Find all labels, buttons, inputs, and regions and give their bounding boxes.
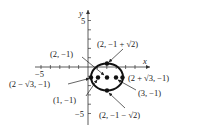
top-vertex-pointer (109, 49, 123, 62)
center-dot (105, 75, 109, 79)
bottom-vertex-pointer (109, 93, 125, 108)
left-vertex-dot (89, 75, 93, 79)
center-label: (2, −1) (50, 49, 73, 59)
bottom-vertex-dot (105, 88, 109, 92)
left-focus-label: (1, −1) (53, 95, 76, 105)
y-tick-neg5: −5 (75, 109, 84, 119)
right-vertex-dot (120, 75, 124, 79)
left-vertex-pointer (68, 79, 89, 85)
left-vertex-label: (2 − √3, −1) (9, 79, 50, 89)
x-axis-label: x (142, 56, 147, 66)
y-axis (86, 10, 91, 125)
y-tick-5: 5 (81, 16, 85, 26)
right-vertex-label: (2 + √3, −1) (128, 73, 169, 83)
ellipse-diagram: y x 5 −5 −5 (2, −1) (2, −1 + √2) (2, −1 … (0, 0, 206, 131)
right-focus-label: (3, −1) (138, 88, 161, 98)
top-vertex-dot (105, 61, 109, 65)
right-focus-dot (114, 75, 118, 79)
top-vertex-label: (2, −1 + √2) (97, 39, 138, 49)
x-tick-neg5: −5 (35, 69, 44, 79)
bottom-vertex-label: (2, −1 − √2) (99, 110, 140, 120)
left-focus-dot (96, 75, 100, 79)
